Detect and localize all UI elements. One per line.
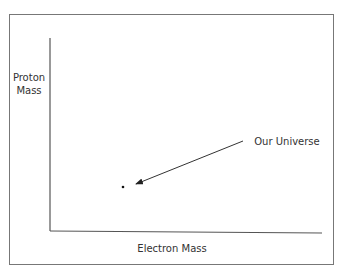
x-axis [50,231,322,233]
our-universe-point [122,186,125,189]
annotation-label: Our Universe [254,136,319,147]
annotation-arrow [136,141,243,184]
y-axis-label-line2: Mass [16,85,41,96]
diagram-canvas: Proton Mass Electron Mass Our Universe [0,0,344,273]
y-axis-label-line1: Proton [13,72,45,83]
x-axis-label: Electron Mass [137,243,206,254]
